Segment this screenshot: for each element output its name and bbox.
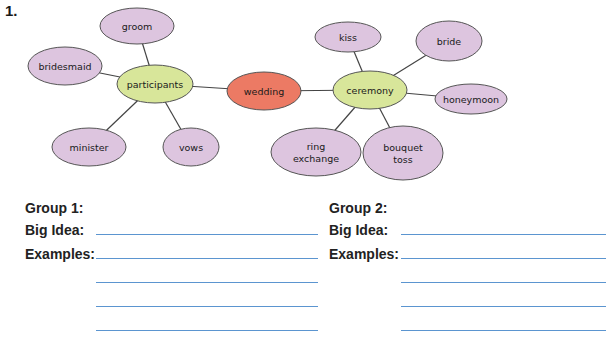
svg-text:kiss: kiss <box>339 32 357 43</box>
svg-text:ceremony: ceremony <box>346 85 394 96</box>
group-2-title: Group 2: <box>329 200 387 216</box>
node-groom: groom <box>100 8 174 44</box>
node-bridesmaid: bridesmaid <box>28 47 102 85</box>
svg-text:honeymoon: honeymoon <box>443 94 499 105</box>
svg-text:bride: bride <box>437 36 462 47</box>
svg-text:bouquet: bouquet <box>383 142 423 153</box>
node-minister: minister <box>52 128 126 166</box>
group-2-big-idea-line[interactable] <box>401 234 606 235</box>
group-1-title: Group 1: <box>25 200 83 216</box>
node-kiss: kiss <box>315 22 381 52</box>
svg-text:exchange: exchange <box>293 153 339 164</box>
group-1-example-line-3[interactable] <box>96 306 318 307</box>
node-honeymoon: honeymoon <box>435 84 507 114</box>
group-2-big-idea-label: Big Idea: <box>329 222 388 238</box>
svg-text:participants: participants <box>127 79 184 90</box>
node-ceremony: ceremony <box>333 71 407 109</box>
svg-text:ring: ring <box>307 141 326 152</box>
node-bride: bride <box>416 21 482 61</box>
node-vows: vows <box>163 128 219 166</box>
group-1-big-idea-label: Big Idea: <box>25 222 84 238</box>
svg-text:wedding: wedding <box>244 86 284 97</box>
group-2-example-line-2[interactable] <box>401 282 606 283</box>
group-1-big-idea-line[interactable] <box>96 234 318 235</box>
group-2-examples-label: Examples: <box>329 246 399 262</box>
node-participants: participants <box>117 65 193 103</box>
node-wedding: wedding <box>227 72 301 110</box>
group-1-example-line-2[interactable] <box>96 282 318 283</box>
group-2-example-line-1[interactable] <box>401 258 606 259</box>
nodes: weddingparticipantsceremonygroombridesma… <box>28 8 507 180</box>
svg-text:bridesmaid: bridesmaid <box>38 61 91 72</box>
svg-text:toss: toss <box>393 154 412 165</box>
group-1-example-line-1[interactable] <box>96 258 318 259</box>
svg-text:vows: vows <box>179 142 203 153</box>
group-2-example-line-4[interactable] <box>401 330 606 331</box>
svg-text:minister: minister <box>70 142 109 153</box>
node-ring-exchange: ringexchange <box>271 128 361 176</box>
group-2-example-line-3[interactable] <box>401 306 606 307</box>
group-1-example-line-4[interactable] <box>96 330 318 331</box>
word-web-diagram: weddingparticipantsceremonygroombridesma… <box>0 0 606 200</box>
svg-text:groom: groom <box>122 21 153 32</box>
group-1-examples-label: Examples: <box>25 246 95 262</box>
node-bouquet-toss: bouquettoss <box>363 126 443 180</box>
